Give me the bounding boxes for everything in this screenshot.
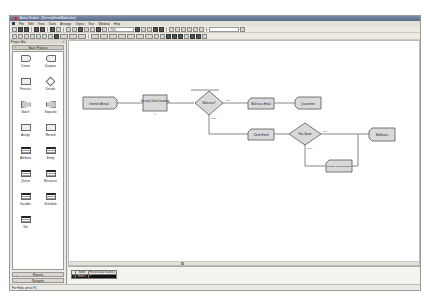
block-malicious-decide[interactable]: Malicious? True False xyxy=(195,91,231,119)
start-over-icon[interactable] xyxy=(193,27,198,32)
system-menu-icon[interactable] xyxy=(12,22,15,25)
new-icon[interactable] xyxy=(12,27,17,32)
copy-icon[interactable] xyxy=(72,27,77,32)
template-attach-icon[interactable] xyxy=(34,27,39,32)
help-icon[interactable] xyxy=(240,27,245,32)
animate-icon[interactable] xyxy=(153,27,158,32)
connect-icon[interactable] xyxy=(141,27,146,32)
module-dispose[interactable]: Dispose xyxy=(38,55,63,78)
ungroup-icon[interactable] xyxy=(202,34,207,39)
line-style-icon[interactable] xyxy=(109,34,117,39)
undo-icon[interactable] xyxy=(84,27,89,32)
window-bg-color-icon[interactable] xyxy=(91,34,99,39)
block-quarantine[interactable]: Quarantine xyxy=(295,97,321,109)
navigate-panel-button[interactable]: ⌄Navigate xyxy=(12,278,64,283)
bezier-icon[interactable] xyxy=(30,34,35,39)
module-set[interactable]: Set xyxy=(13,216,38,239)
align-bottom-icon[interactable] xyxy=(178,34,183,39)
run-icon[interactable] xyxy=(169,27,174,32)
menu-file[interactable]: File xyxy=(19,22,24,26)
column-header-record-data-statistics[interactable]: Record Data Statistics xyxy=(88,271,117,275)
animate-connect-icon[interactable] xyxy=(159,27,164,32)
module-resource[interactable]: Resource xyxy=(38,170,63,193)
line-width-icon[interactable] xyxy=(100,34,108,39)
module-entity[interactable]: Entity xyxy=(38,147,63,170)
module-queue[interactable]: Queue xyxy=(13,170,38,193)
reports-panel-button[interactable]: ⌄Reports xyxy=(12,272,64,277)
zoom-combo[interactable]: 70% xyxy=(108,27,134,32)
menu-arrange[interactable]: Arrange xyxy=(60,22,71,26)
print-icon[interactable] xyxy=(50,27,55,32)
text-color-icon[interactable] xyxy=(78,34,86,39)
ellipse-icon[interactable] xyxy=(48,34,53,39)
module-process[interactable]: Process xyxy=(13,78,38,101)
module-separate[interactable]: Separate xyxy=(38,101,63,124)
fast-forward-icon[interactable] xyxy=(181,27,186,32)
speed-slider[interactable] xyxy=(209,27,239,32)
block-mailboxes[interactable]: Mailboxes xyxy=(369,128,395,141)
module-record[interactable]: Record xyxy=(38,124,63,147)
module-schedule[interactable]: Schedule xyxy=(38,193,63,216)
block-has-spam-decide[interactable]: Has Spam True False xyxy=(289,123,328,149)
block-malicious-email[interactable]: Malicious Email xyxy=(248,98,274,109)
box-icon[interactable] xyxy=(36,34,41,39)
text-icon[interactable] xyxy=(54,34,59,39)
module-batch[interactable]: Batch xyxy=(13,101,38,124)
redo-icon[interactable] xyxy=(90,27,95,32)
grid-icon[interactable] xyxy=(145,34,153,39)
zoom-icon[interactable] xyxy=(102,27,107,32)
save-icon[interactable] xyxy=(24,27,29,32)
menu-tools[interactable]: Tools xyxy=(49,22,56,26)
module-attribute[interactable]: Attribute xyxy=(13,147,38,170)
line-color-icon[interactable] xyxy=(60,34,68,39)
menu-run[interactable]: Run xyxy=(89,22,95,26)
module-decide[interactable]: Decide xyxy=(38,78,63,101)
pause-icon[interactable] xyxy=(187,27,192,32)
menu-help[interactable]: Help xyxy=(114,22,121,26)
block-internet-arrival[interactable]: Internet Arrival xyxy=(83,97,117,109)
polyline-icon[interactable] xyxy=(18,34,23,39)
menu-object[interactable]: Object xyxy=(75,22,84,26)
model-canvas[interactable]: Internet Arrival Security Check Incoming… xyxy=(68,40,420,266)
table-row[interactable]: 1 Name 1 ? xyxy=(72,275,117,279)
cut-icon[interactable] xyxy=(66,27,71,32)
print-preview-icon[interactable] xyxy=(56,27,61,32)
layers-icon[interactable] xyxy=(96,27,101,32)
basic-process-panel-header[interactable]: ⌃ Basic Process xyxy=(12,45,64,50)
align-left-icon[interactable] xyxy=(160,34,165,39)
arc-icon[interactable] xyxy=(24,34,29,39)
line-icon[interactable] xyxy=(12,34,17,39)
paste-icon[interactable] xyxy=(78,27,83,32)
step-icon[interactable] xyxy=(175,27,180,32)
open-icon[interactable] xyxy=(18,27,23,32)
snap-icon[interactable] xyxy=(154,34,159,39)
block-clean-email[interactable]: Clean Email xyxy=(248,129,274,140)
flip-icon[interactable] xyxy=(190,34,195,39)
template-detach-icon[interactable] xyxy=(40,27,45,32)
align-top-icon[interactable] xyxy=(166,34,171,39)
distribute-icon[interactable] xyxy=(184,34,189,39)
fill-color-icon[interactable] xyxy=(69,34,77,39)
horizontal-scrollbar[interactable] xyxy=(69,261,419,265)
align-right-icon[interactable] xyxy=(172,34,177,39)
arrow-style-icon[interactable] xyxy=(118,34,126,39)
polygon-icon[interactable] xyxy=(42,34,47,39)
cell-name[interactable]: Name 1 xyxy=(76,275,88,279)
module-assign[interactable]: Assign xyxy=(13,124,38,147)
cell-record-data-statistics[interactable]: ? xyxy=(88,275,117,279)
menu-window[interactable]: Window xyxy=(98,22,109,26)
close-icon[interactable]: × xyxy=(62,40,64,44)
show-dimensions-icon[interactable] xyxy=(136,34,144,39)
menu-edit[interactable]: Edit xyxy=(28,22,34,26)
view-icon[interactable] xyxy=(135,27,140,32)
module-create[interactable]: Create xyxy=(13,55,38,78)
menu-view[interactable]: View xyxy=(38,22,45,26)
block-security-check[interactable]: Security Check Incoming 0 xyxy=(141,95,170,116)
block-upload-antivirus[interactable]: Upload Antivirus Block xyxy=(326,160,352,172)
connector[interactable] xyxy=(352,134,358,166)
fill-pattern-icon[interactable] xyxy=(127,34,135,39)
rotate-icon[interactable] xyxy=(196,34,201,39)
end-icon[interactable] xyxy=(199,27,204,32)
scroll-thumb[interactable] xyxy=(181,262,184,265)
module-variable[interactable]: Variable xyxy=(13,193,38,216)
